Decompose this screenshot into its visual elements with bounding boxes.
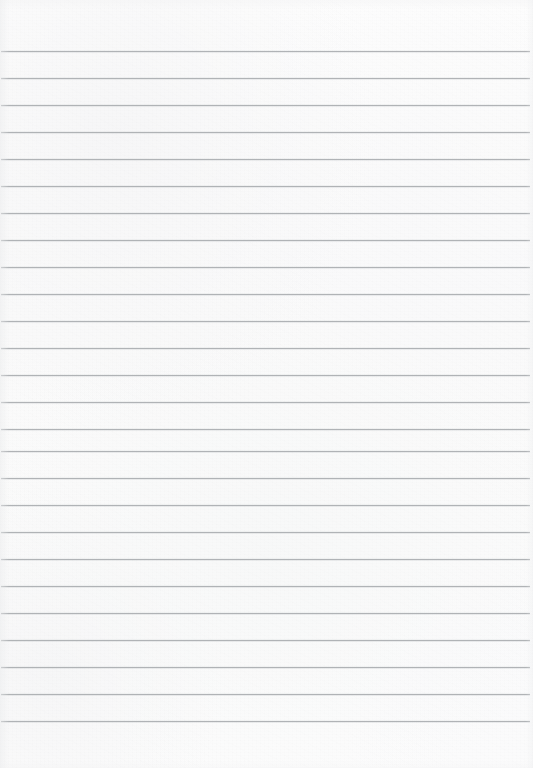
paper-grain-texture bbox=[0, 0, 533, 768]
rule-line bbox=[1, 667, 530, 668]
rule-line bbox=[1, 132, 530, 133]
rule-line bbox=[1, 240, 530, 241]
rule-line bbox=[1, 51, 530, 52]
rule-line bbox=[1, 586, 530, 587]
rule-line bbox=[1, 451, 530, 452]
paper-edge-vignette bbox=[0, 0, 533, 768]
rule-line bbox=[1, 213, 530, 214]
rule-line bbox=[1, 105, 530, 106]
rule-line bbox=[1, 694, 530, 695]
rule-line bbox=[1, 532, 530, 533]
rule-line bbox=[1, 267, 530, 268]
rule-line bbox=[1, 559, 530, 560]
rule-line bbox=[1, 640, 530, 641]
rule-line bbox=[1, 78, 530, 79]
rule-line-group bbox=[0, 0, 533, 768]
rule-line bbox=[1, 348, 530, 349]
rule-line bbox=[1, 429, 530, 430]
rule-line bbox=[1, 478, 530, 479]
rule-line bbox=[1, 159, 530, 160]
rule-line bbox=[1, 321, 530, 322]
rule-line bbox=[1, 402, 530, 403]
rule-line bbox=[1, 505, 530, 506]
rule-line bbox=[1, 613, 530, 614]
rule-line bbox=[1, 375, 530, 376]
ruled-paper-sheet bbox=[0, 0, 533, 768]
rule-line bbox=[1, 186, 530, 187]
rule-line bbox=[1, 294, 530, 295]
rule-line bbox=[1, 721, 530, 722]
